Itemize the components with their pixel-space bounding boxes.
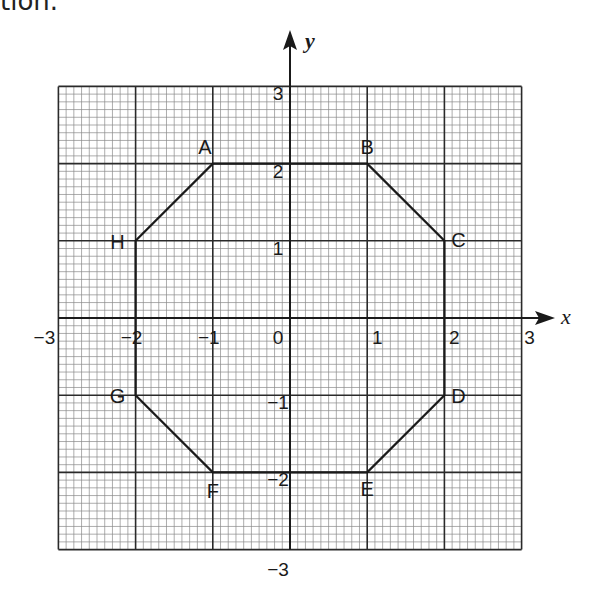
vertex-label-h: H <box>110 231 124 253</box>
vertex-label-g: G <box>110 385 126 407</box>
x-tick-label: 2 <box>449 327 460 348</box>
x-tick-label: −2 <box>121 327 143 348</box>
y-tick-label: −1 <box>267 392 289 413</box>
y-tick-label: 2 <box>273 161 284 182</box>
x-tick-label: −3 <box>34 327 56 348</box>
x-tick-label: 3 <box>524 327 535 348</box>
y-tick-label: 3 <box>273 83 284 104</box>
vertex-label-d: D <box>451 385 465 407</box>
coordinate-grid: xy−3−2−11230321−1−2−3ABCDEFGH <box>0 0 602 602</box>
y-tick-label: 1 <box>273 238 284 259</box>
y-axis-label: y <box>302 28 315 53</box>
vertex-label-b: B <box>361 136 374 158</box>
vertex-label-c: C <box>451 229 465 251</box>
y-tick-label: −3 <box>267 559 289 580</box>
vertex-label-e: E <box>361 478 374 500</box>
origin-label: 0 <box>273 327 284 348</box>
vertex-label-a: A <box>198 136 212 158</box>
x-tick-label: 1 <box>372 327 383 348</box>
vertex-label-f: F <box>207 480 219 502</box>
x-tick-label: −1 <box>198 327 220 348</box>
x-axis-label: x <box>560 304 571 329</box>
y-tick-label: −2 <box>267 469 289 490</box>
